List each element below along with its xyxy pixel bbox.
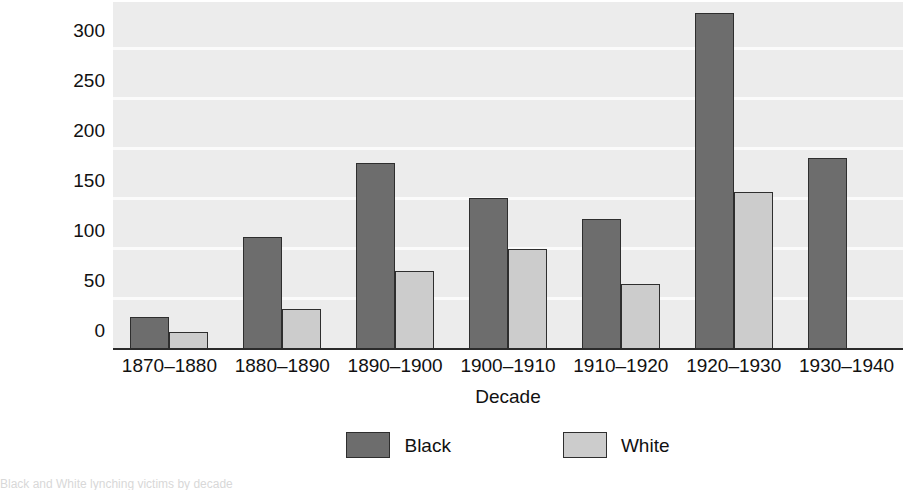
bar-black-1910–1920[interactable] xyxy=(582,219,621,350)
x-tick-label-1930–1940: 1930–1940 xyxy=(790,354,903,378)
legend-swatch-black-icon xyxy=(346,432,390,458)
plot-area xyxy=(113,2,903,350)
y-axis: 050100150200250300 xyxy=(0,2,105,350)
x-tick-label-1880–1890: 1880–1890 xyxy=(226,354,339,378)
legend-label-white: White xyxy=(621,436,670,455)
x-tick-label-1870–1880: 1870–1880 xyxy=(113,354,226,378)
bar-white-1890–1900[interactable] xyxy=(395,271,434,350)
bars-layer xyxy=(113,2,903,350)
bar-black-1930–1940[interactable] xyxy=(808,158,847,350)
legend-swatch-white-icon xyxy=(563,432,607,458)
y-tick-label-0: 0 xyxy=(5,321,105,340)
bar-group xyxy=(790,2,903,350)
y-tick-label-300: 300 xyxy=(5,21,105,40)
x-tick-label-1890–1900: 1890–1900 xyxy=(339,354,452,378)
x-axis-line xyxy=(113,348,903,350)
y-tick-label-50: 50 xyxy=(5,271,105,290)
bar-group xyxy=(339,2,452,350)
y-tick-label-100: 100 xyxy=(5,221,105,240)
legend-item-black[interactable]: Black xyxy=(346,432,450,458)
bar-black-1890–1900[interactable] xyxy=(356,163,395,350)
y-tick-label-150: 150 xyxy=(5,171,105,190)
bar-black-1920–1930[interactable] xyxy=(695,13,734,350)
bar-group xyxy=(113,2,226,350)
legend: Black White xyxy=(113,428,903,462)
x-tick-label-1910–1920: 1910–1920 xyxy=(564,354,677,378)
x-tick-label-1920–1930: 1920–1930 xyxy=(677,354,790,378)
bar-group xyxy=(226,2,339,350)
bar-white-1920–1930[interactable] xyxy=(734,192,773,350)
legend-item-white[interactable]: White xyxy=(563,432,670,458)
x-axis-title: Decade xyxy=(113,386,903,408)
y-tick-label-200: 200 xyxy=(5,121,105,140)
bar-group xyxy=(564,2,677,350)
bar-group xyxy=(677,2,790,350)
legend-label-black: Black xyxy=(404,436,450,455)
bar-black-1900–1910[interactable] xyxy=(469,198,508,350)
x-tick-label-1900–1910: 1900–1910 xyxy=(452,354,565,378)
bar-black-1880–1890[interactable] xyxy=(243,237,282,350)
bar-white-1900–1910[interactable] xyxy=(508,249,547,350)
x-axis-tick-labels: 1870–18801880–18901890–19001900–19101910… xyxy=(113,354,903,380)
figure-caption-text: Black and White lynching victims by deca… xyxy=(0,478,908,490)
bar-group xyxy=(452,2,565,350)
bar-white-1880–1890[interactable] xyxy=(282,309,321,350)
bar-white-1910–1920[interactable] xyxy=(621,284,660,350)
bar-chart: 050100150200250300 1870–18801880–1890189… xyxy=(0,0,908,490)
bar-black-1870–1880[interactable] xyxy=(130,317,169,350)
y-tick-label-250: 250 xyxy=(5,71,105,90)
figure-caption: Black and White lynching victims by deca… xyxy=(0,478,908,490)
